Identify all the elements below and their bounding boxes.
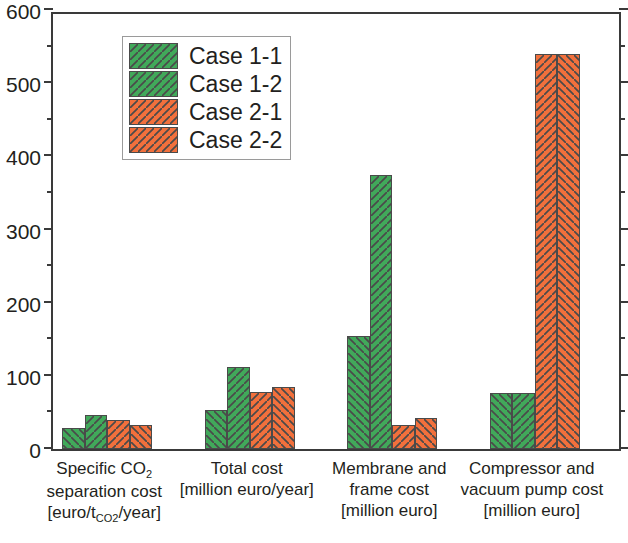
y-tick-major (44, 8, 53, 10)
bar-case-2-1-group-3 (392, 425, 415, 449)
legend-item-case-2-2[interactable]: Case 2-2 (129, 126, 282, 154)
y-tick-major-right (619, 154, 628, 156)
x-axis-label-line1: Specific CO2 (33, 458, 176, 481)
y-tick-major (44, 447, 53, 449)
x-axis-label-group-1: Specific CO2separation cost[euro/tCO2/ye… (33, 458, 176, 525)
bar-case-2-1-group-2 (250, 392, 273, 449)
y-tick-major (44, 154, 53, 156)
y-tick-minor-right (619, 264, 625, 266)
y-tick-major-right (619, 228, 628, 230)
y-tick-major (44, 374, 53, 376)
x-axis-label-line3: [million euro] (461, 500, 604, 521)
legend-item-case-1-1[interactable]: Case 1-1 (129, 42, 282, 70)
legend: Case 1-1Case 1-2Case 2-1Case 2-2 (122, 36, 291, 160)
y-tick-minor-right (619, 118, 625, 120)
x-axis-label-line2: separation cost (33, 481, 176, 502)
legend-label: Case 2-1 (189, 101, 282, 124)
bar-case-1-1-group-4 (490, 393, 513, 449)
legend-swatch-icon (129, 99, 178, 125)
legend-item-case-1-2[interactable]: Case 1-2 (129, 70, 282, 98)
y-tick-minor-right (619, 191, 625, 193)
y-tick-major-right (619, 81, 628, 83)
x-axis-label-line1: Total cost (176, 458, 319, 479)
bar-case-1-2-group-4 (512, 393, 535, 449)
bar-case-2-2-group-2 (272, 387, 295, 449)
x-axis-label-line3: [million euro] (318, 500, 461, 521)
legend-item-case-2-1[interactable]: Case 2-1 (129, 98, 282, 126)
bar-case-1-1-group-3 (347, 336, 370, 449)
bar-case-1-2-group-1 (85, 415, 108, 449)
legend-label: Case 1-1 (189, 45, 282, 68)
x-axis-labels: Specific CO2separation cost[euro/tCO2/ye… (51, 458, 621, 543)
legend-swatch-icon (129, 71, 178, 97)
y-tick-major-right (619, 301, 628, 303)
x-axis-label-line2: vacuum pump cost (461, 479, 604, 500)
bar-case-2-1-group-1 (107, 420, 130, 449)
plot-area: Case 1-1Case 1-2Case 2-1Case 2-2 (51, 12, 621, 451)
bar-case-1-2-group-3 (370, 175, 393, 449)
x-axis-label-line2: [million euro/year] (176, 479, 319, 500)
y-tick-major-right (619, 374, 628, 376)
x-axis-label-line2: frame cost (318, 479, 461, 500)
bar-case-1-1-group-2 (205, 410, 228, 449)
bar-case-2-2-group-4 (557, 54, 580, 449)
y-tick-major (44, 81, 53, 83)
bar-case-2-2-group-1 (130, 425, 153, 449)
x-axis-label-group-3: Membrane andframe cost[million euro] (318, 458, 461, 521)
y-tick-major (44, 228, 53, 230)
bar-case-2-2-group-3 (415, 418, 438, 449)
y-tick-major (44, 301, 53, 303)
y-tick-major-right (619, 8, 628, 10)
legend-swatch-icon (129, 43, 178, 69)
y-axis-labels: 0100200300400500600 (0, 12, 51, 451)
x-axis-label-line1: Compressor and (461, 458, 604, 479)
x-axis-label-group-4: Compressor andvacuum pump cost[million e… (461, 458, 604, 521)
y-tick-minor-right (619, 45, 625, 47)
legend-label: Case 2-2 (189, 129, 282, 152)
y-tick-major-right (619, 447, 628, 449)
bar-case-1-1-group-1 (62, 428, 85, 449)
legend-label: Case 1-2 (189, 73, 282, 96)
y-tick-minor-right (619, 410, 625, 412)
bar-case-1-2-group-2 (227, 367, 250, 449)
bar-case-2-1-group-4 (535, 54, 558, 449)
bar-chart: 0100200300400500600 Case 1-1Case 1-2Case… (0, 0, 628, 543)
x-axis-label-group-2: Total cost[million euro/year] (176, 458, 319, 500)
x-axis-label-line3: [euro/tCO2/year] (33, 502, 176, 525)
legend-swatch-icon (129, 127, 178, 153)
y-tick-minor-right (619, 337, 625, 339)
x-axis-label-line1: Membrane and (318, 458, 461, 479)
